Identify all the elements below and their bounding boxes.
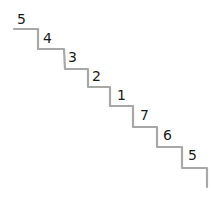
staircase-line: [0, 0, 212, 197]
step-label: 5: [17, 12, 26, 26]
step-label: 5: [188, 148, 197, 162]
step-label: 7: [140, 108, 149, 122]
step-label: 1: [117, 88, 126, 102]
step-label: 4: [43, 31, 52, 45]
step-label: 6: [163, 128, 172, 142]
step-label: 2: [92, 69, 101, 83]
step-label: 3: [68, 50, 77, 64]
